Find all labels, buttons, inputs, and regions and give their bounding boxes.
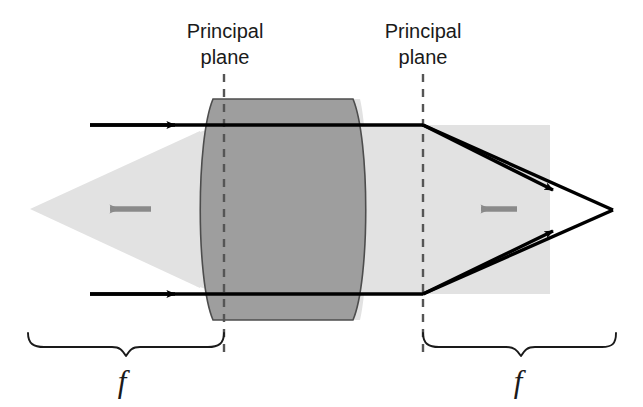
principal-plane-right-label-line2: plane [399,46,448,68]
focal-length-label-right: f [514,364,527,399]
optics-diagram-figure: Principal plane Principal plane f f [0,0,643,407]
focal-length-brace-left [28,333,224,356]
principal-plane-left-label-line1: Principal [187,20,264,42]
optics-diagram-canvas: Principal plane Principal plane f f [0,0,643,407]
focal-length-brace-right [423,333,616,356]
principal-plane-left-label-line2: plane [201,46,250,68]
focal-length-label-left: f [118,364,131,399]
principal-plane-right-label-line1: Principal [385,20,462,42]
